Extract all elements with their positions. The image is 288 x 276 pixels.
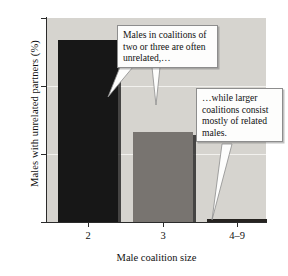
x-tick-label-3: 3 bbox=[133, 230, 193, 241]
y-axis-title: Males with unrelated partners (%) bbox=[29, 14, 40, 214]
x-tick-label-2: 2 bbox=[58, 230, 118, 241]
callout-coalitions-large: …while larger coalitions consist mostly … bbox=[196, 88, 283, 142]
bar-chart-figure: 0 25 50 75 2 3 4–9 Males with unrelated … bbox=[0, 0, 288, 276]
callout-2-line-2: coalitions consist bbox=[202, 104, 278, 116]
callout-2-line-1: …while larger bbox=[202, 92, 278, 104]
callout-1-line-2: two or three are often bbox=[123, 41, 213, 53]
callout-1-line-3: unrelated,… bbox=[123, 52, 213, 64]
y-tick-mark-0 bbox=[41, 222, 46, 223]
bar-category-3-shadow bbox=[193, 135, 196, 223]
x-axis-title: Male coalition size bbox=[47, 252, 266, 263]
x-tick-mark-2 bbox=[88, 222, 89, 227]
x-tick-label-4-9: 4–9 bbox=[207, 230, 267, 241]
y-tick-mark-25 bbox=[41, 154, 46, 155]
x-tick-mark-3 bbox=[163, 222, 164, 227]
y-axis-line bbox=[46, 17, 47, 223]
x-tick-mark-4-9 bbox=[237, 222, 238, 227]
callout-2-line-3: mostly of related bbox=[202, 115, 278, 127]
x-axis-line bbox=[46, 222, 267, 223]
bar-category-2-shadow bbox=[118, 43, 121, 223]
bar-category-3 bbox=[133, 132, 193, 223]
y-tick-mark-50 bbox=[41, 86, 46, 87]
y-tick-mark-75 bbox=[41, 18, 46, 19]
callout-2-line-4: males. bbox=[202, 127, 278, 139]
callout-1-line-1: Males in coalitions of bbox=[123, 29, 213, 41]
callout-coalitions-small: Males in coalitions of two or three are … bbox=[117, 25, 218, 68]
bar-category-2 bbox=[58, 40, 118, 223]
